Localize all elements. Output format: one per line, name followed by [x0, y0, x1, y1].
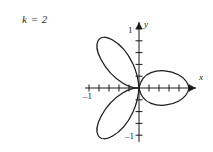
x-axis-label: x	[198, 72, 203, 82]
figure-canvas: k = 2	[0, 0, 213, 152]
x-axis-arrowhead	[189, 85, 196, 92]
y-tick-label-1: 1	[128, 25, 133, 35]
polar-rose-plot: x y –1 1 –1	[0, 0, 213, 152]
x-tick-label-neg1: –1	[82, 91, 92, 101]
y-axis-label: y	[143, 19, 148, 29]
y-tick-label-neg1: –1	[124, 131, 134, 141]
y-axis-arrowhead	[136, 22, 143, 29]
